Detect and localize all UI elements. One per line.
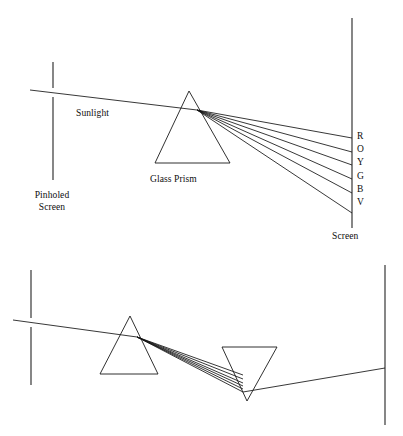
dispersed-ray-red: [197, 110, 352, 138]
label-pinholed-screen-line1: Pinholed: [16, 190, 88, 201]
physics-figure: Sunlight Glass Prism Pinholed Screen Scr…: [0, 0, 403, 436]
recombined-beam: [243, 368, 385, 392]
dispersed-ray-blue: [197, 110, 352, 193]
spectrum-letter-violet: V: [357, 196, 371, 209]
spectrum-letter-green: G: [357, 170, 371, 183]
diagram-canvas: [0, 0, 403, 436]
spectrum-letter-blue: B: [357, 183, 371, 196]
dispersed-ray-yellow: [197, 110, 352, 165]
spectrum-letter-orange: O: [357, 143, 371, 156]
dispersed-ray-red-bottom: [137, 337, 243, 375]
glass-prism-bottom-first: [100, 316, 158, 374]
spectrum-letter-yellow: Y: [357, 156, 371, 169]
label-glass-prism: Glass Prism: [150, 174, 197, 185]
label-pinholed-screen-line2: Screen: [16, 202, 88, 213]
sunlight-ray: [30, 90, 197, 110]
sunlight-ray-bottom: [13, 320, 137, 337]
spectrum-letter-red: R: [357, 130, 371, 143]
bottom-diagram-group: [13, 265, 385, 425]
spectrum-letter-column: R O Y G B V: [357, 130, 371, 209]
dispersed-ray-violet: [197, 110, 352, 213]
dispersed-ray-green: [197, 110, 352, 179]
dispersed-ray-violet-bottom: [137, 337, 243, 392]
label-screen-top-diagram: Screen: [332, 231, 358, 242]
label-sunlight: Sunlight: [76, 108, 109, 119]
glass-prism-top: [155, 91, 230, 163]
